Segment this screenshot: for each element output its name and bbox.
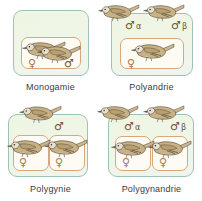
male-symbol-glyph: ♂ — [171, 19, 181, 32]
male-alpha-symbol-polygynandry: ♂α — [124, 121, 140, 132]
male-symbol-polygyny: ♂ — [54, 121, 64, 132]
female-symbol-monogamy: ♀ — [28, 58, 36, 69]
female-symbol-polyandry: ♀ — [127, 58, 135, 69]
bird-female-polyandry — [132, 42, 174, 62]
male-beta-symbol-polygynandry: ♂β — [170, 121, 186, 132]
mating-systems-figure: ♀ ♂ Monogamie ♂α ♂β ♀ Polyandrie — [0, 0, 202, 201]
bird-female-polygynandry-1 — [112, 139, 154, 159]
caption-monogamy: Monogamie — [0, 82, 101, 92]
male-symbol-glyph: ♂ — [125, 19, 135, 32]
alpha-label: α — [135, 22, 141, 31]
male-alpha-symbol-polyandry: ♂α — [125, 20, 141, 31]
panel-polygynandry: ♂α ♂β ♀ ♀ Polygynandrie — [101, 100, 202, 201]
panel-polygyny: ♂ ♀ ♀ Polygynie — [0, 100, 101, 201]
male-beta-symbol-polyandry: ♂β — [171, 20, 187, 31]
alpha-label: α — [134, 123, 140, 132]
female-symbol-polygynandry-2: ♀ — [159, 157, 167, 168]
panel-monogamy: ♀ ♂ Monogamie — [0, 0, 101, 100]
female-symbol-polygyny-1: ♀ — [19, 157, 27, 168]
beta-label: β — [181, 22, 187, 31]
panel-polyandry: ♂α ♂β ♀ Polyandrie — [101, 0, 202, 100]
caption-polygyny: Polygynie — [0, 184, 101, 194]
male-symbol-glyph: ♂ — [124, 120, 134, 133]
bird-female-polygynandry-2 — [149, 139, 191, 159]
beta-label: β — [180, 123, 186, 132]
male-symbol-monogamy: ♂ — [64, 58, 74, 69]
caption-polygynandry: Polygynandrie — [101, 184, 202, 194]
caption-polyandry: Polyandrie — [101, 82, 202, 92]
male-symbol-glyph: ♂ — [170, 120, 180, 133]
female-symbol-polygyny-2: ♀ — [55, 157, 63, 168]
bird-female-polygyny-2 — [45, 138, 87, 158]
female-symbol-polygynandry-1: ♀ — [122, 157, 130, 168]
bird-female-polygyny-1 — [8, 138, 50, 158]
